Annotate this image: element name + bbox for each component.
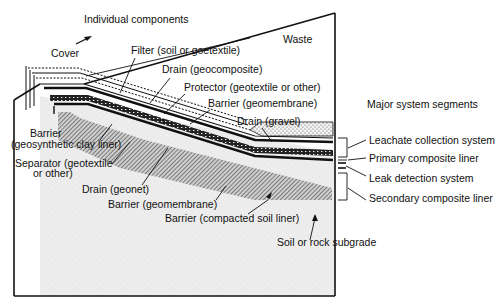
label-barrier-geomembrane-top: Barrier (geomembrane) — [208, 97, 317, 109]
segment-leader-lines — [346, 140, 366, 200]
heading-individual-components: Individual components — [84, 13, 188, 25]
segment-primary-composite-liner: Primary composite liner — [369, 152, 479, 164]
label-barrier-geomembrane-bottom: Barrier (geomembrane) — [108, 198, 217, 210]
segment-brackets — [338, 138, 347, 200]
segment-leachate-collection: Leachate collection system — [369, 134, 495, 146]
segment-leak-detection: Leak detection system — [369, 172, 474, 184]
label-barrier-gcl-sub: (geosynthetic clay liner) — [11, 138, 121, 150]
label-waste: Waste — [283, 33, 313, 45]
landfill-liner-diagram: Individual components Cover Waste Filter… — [0, 0, 495, 304]
label-filter: Filter (soil or goetextile) — [131, 44, 240, 56]
label-drain-geocomposite: Drain (geocomposite) — [162, 63, 262, 75]
label-cover: Cover — [51, 47, 80, 59]
label-drain-gravel: Drain (gravel) — [237, 115, 301, 127]
label-drain-geonet: Drain (geonet) — [82, 183, 149, 195]
heading-major-system-segments: Major system segments — [367, 98, 478, 110]
label-barrier-compacted-soil: Barrier (compacted soil liner) — [165, 212, 299, 224]
label-subgrade: Soil or rock subgrade — [277, 236, 376, 248]
label-separator-sub: or other) — [33, 167, 73, 179]
segment-secondary-composite-liner: Secondary composite liner — [369, 192, 493, 204]
label-protector: Protector (geotextile or other) — [184, 81, 321, 93]
cover-arrow-icon — [76, 36, 92, 44]
